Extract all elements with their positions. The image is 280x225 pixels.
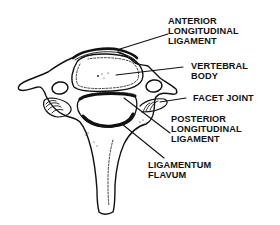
label-posterior-longitudinal-ligament: POSTERIOR LONGITUDINAL LIGAMENT: [171, 114, 242, 145]
left-transverse-foramen: [51, 81, 69, 96]
leader-anterior-ligament: [120, 34, 168, 49]
left-facet-joint: [44, 98, 71, 117]
leader-ligamentum-flavum: [122, 124, 164, 158]
label-vertebral-body: VERTEBRAL BODY: [191, 61, 248, 81]
label-facet-joint: FACET JOINT: [193, 93, 254, 103]
right-transverse-foramen: [145, 79, 163, 94]
label-anterior-longitudinal-ligament: ANTERIOR LONGITUDINAL LIGAMENT: [168, 16, 239, 47]
label-ligamentum-flavum: LIGAMENTUM FLAVUM: [148, 160, 211, 180]
vertebra-diagram: ANTERIOR LONGITUDINAL LIGAMENT VERTEBRAL…: [0, 0, 280, 225]
